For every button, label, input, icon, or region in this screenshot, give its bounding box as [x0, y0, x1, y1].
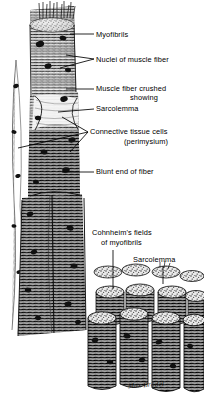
label-sarcolemma-bottom: Sarcolemma: [133, 255, 175, 265]
crushed-fiber-segment: [26, 90, 82, 202]
label-blunt-end-of-fiber: Blunt end of fiber: [96, 167, 154, 177]
label-connective-tissue-cells: Connective tissue cells: [90, 127, 167, 137]
anatomical-figure: Myofibrils Nuclei of muscle fiber Muscle…: [0, 0, 204, 406]
label-of-myofibrils: of myofibrils: [101, 238, 142, 248]
label-myofibrils: Myofibrils: [96, 30, 128, 40]
label-perimysium: (perimysium): [90, 137, 202, 147]
label-nuclei-of-muscle-fiber: Nuclei of muscle fiber: [96, 55, 169, 65]
label-sarcolemma-top: Sarcolemma: [96, 104, 138, 114]
cut-fiber-cylinder-row-front: [88, 308, 204, 392]
label-showing: showing: [96, 93, 192, 103]
fiber-bundle-cluster: [88, 261, 204, 392]
cut-end-cap: [30, 18, 74, 32]
label-cohnheims-fields: Cohnheim's fields: [92, 228, 152, 238]
